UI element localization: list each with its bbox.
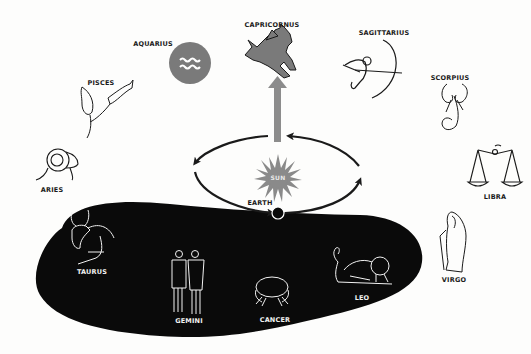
label-aquarius: AQUARIUS xyxy=(133,40,173,48)
label-libra: LIBRA xyxy=(484,193,507,201)
label-virgo: VIRGO xyxy=(442,276,466,284)
label-leo: LEO xyxy=(355,294,370,302)
label-gemini: GEMINI xyxy=(175,317,203,325)
label-earth: EARTH xyxy=(247,199,272,207)
label-cancer: CANCER xyxy=(260,316,291,324)
label-scorpius: SCORPIUS xyxy=(431,74,470,82)
ram-icon xyxy=(36,149,78,180)
scales-icon xyxy=(468,145,522,186)
label-taurus: TAURUS xyxy=(77,268,107,276)
fish-icon xyxy=(81,80,133,138)
label-pisces: PISCES xyxy=(88,79,115,87)
label-capricornus: CAPRICORNUS xyxy=(245,21,300,29)
zodiac-diagram: CAPRICORNUS AQUARIUS SAGITTARIUS PISCES … xyxy=(0,0,531,354)
water-bearer-icon xyxy=(169,42,211,84)
earth-icon xyxy=(272,207,284,219)
sea-goat-icon xyxy=(245,24,296,78)
label-aries: ARIES xyxy=(41,186,64,194)
scorpion-icon xyxy=(442,84,467,130)
maiden-icon xyxy=(440,212,466,272)
archer-icon xyxy=(343,40,402,98)
line-of-sight-arrow xyxy=(268,76,287,142)
label-sun: SUN xyxy=(271,174,286,181)
label-sagittarius: SAGITTARIUS xyxy=(359,29,410,37)
